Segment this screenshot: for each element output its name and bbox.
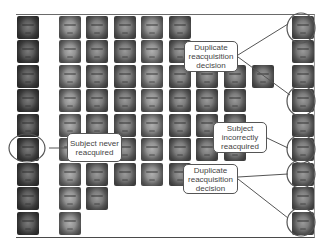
face-thumbnail (141, 16, 163, 39)
face-thumbnail (252, 65, 274, 88)
face-thumbnail (292, 212, 314, 235)
face-thumbnail (86, 163, 108, 186)
face-thumbnail (86, 65, 108, 88)
face-thumbnail (169, 138, 191, 161)
face-thumbnail (141, 138, 163, 161)
face-thumbnail (86, 40, 108, 63)
face-thumbnail (59, 16, 81, 39)
face-thumbnail (292, 114, 314, 137)
face-thumbnail (17, 163, 39, 186)
face-thumbnail (224, 89, 246, 112)
face-thumbnail (59, 65, 81, 88)
face-thumbnail (292, 138, 314, 161)
face-thumbnail (169, 114, 191, 137)
face-thumbnail (17, 212, 39, 235)
face-thumbnail (114, 89, 136, 112)
face-thumbnail (114, 65, 136, 88)
face-thumbnail (59, 89, 81, 112)
face-thumbnail (169, 89, 191, 112)
face-thumbnail (141, 40, 163, 63)
face-thumbnail (59, 40, 81, 63)
face-thumbnail (292, 40, 314, 63)
face-thumbnail (141, 163, 163, 186)
callout-incorrect: Subject incorrectly reacquired (213, 122, 267, 153)
face-thumbnail (17, 89, 39, 112)
face-thumbnail (292, 163, 314, 186)
face-thumbnail (17, 138, 39, 161)
callout-never: Subject never reacquired (67, 133, 122, 162)
face-thumbnail (59, 212, 81, 235)
face-thumbnail (17, 40, 39, 63)
face-thumbnail (17, 16, 39, 39)
face-thumbnail (141, 89, 163, 112)
face-thumbnail (292, 16, 314, 39)
face-thumbnail (17, 114, 39, 137)
face-thumbnail (86, 187, 108, 210)
face-thumbnail (86, 16, 108, 39)
face-thumbnail (292, 89, 314, 112)
face-thumbnail (59, 163, 81, 186)
face-thumbnail (141, 114, 163, 137)
face-thumbnail (292, 65, 314, 88)
face-thumbnail (17, 187, 39, 210)
face-thumbnail (59, 187, 81, 210)
face-thumbnail (17, 65, 39, 88)
face-thumbnail (196, 89, 218, 112)
face-thumbnail (114, 40, 136, 63)
face-thumbnail (292, 187, 314, 210)
callout-dup-bottom: Duplicate reacquisition decision (183, 164, 238, 194)
face-thumbnail (86, 89, 108, 112)
face-thumbnail (114, 16, 136, 39)
face-thumbnail (169, 16, 191, 39)
face-thumbnail (114, 163, 136, 186)
face-thumbnail (141, 65, 163, 88)
callout-dup-top: Duplicate reacquisition decision (184, 41, 238, 72)
